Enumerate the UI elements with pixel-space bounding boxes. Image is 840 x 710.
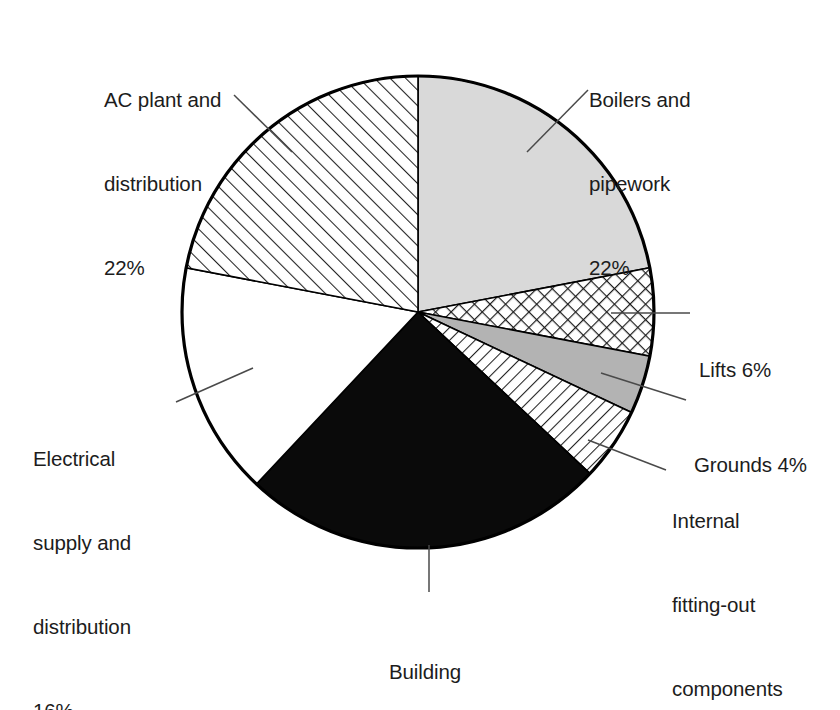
slice-label-electrical-line2: supply and: [33, 529, 131, 557]
pie-slices: [182, 76, 654, 548]
pie-chart-figure: AC plant and distribution 22% Boilers an…: [0, 0, 840, 710]
slice-label-internal-line3: components: [672, 675, 783, 703]
slice-label-ac-plant-value: 22%: [104, 254, 221, 282]
slice-label-boilers-line1: Boilers and: [589, 86, 690, 114]
slice-label-boilers-value: 22%: [589, 254, 690, 282]
slice-label-ac-plant-line2: distribution: [104, 170, 221, 198]
slice-label-electrical-supply: Electrical supply and distribution 16%: [33, 389, 131, 710]
slice-label-electrical-line3: distribution: [33, 613, 131, 641]
slice-label-boilers-line2: pipework: [589, 170, 690, 198]
slice-label-internal-fitting-out: Internal fitting-out components 5%: [672, 451, 783, 710]
slice-label-internal-line2: fitting-out: [672, 591, 783, 619]
slice-label-ac-plant: AC plant and distribution 22%: [104, 30, 221, 338]
slice-label-ac-plant-line1: AC plant and: [104, 86, 221, 114]
slice-label-boilers: Boilers and pipework 22%: [589, 30, 690, 338]
slice-label-electrical-line1: Electrical: [33, 445, 131, 473]
slice-label-electrical-value: 16%: [33, 697, 131, 710]
slice-label-lifts-line1: Lifts 6%: [699, 356, 771, 384]
slice-label-internal-line1: Internal: [672, 507, 783, 535]
slice-label-building-line1: Building: [389, 658, 471, 686]
slice-label-building-envelope: Building envelope 25%: [389, 602, 471, 710]
